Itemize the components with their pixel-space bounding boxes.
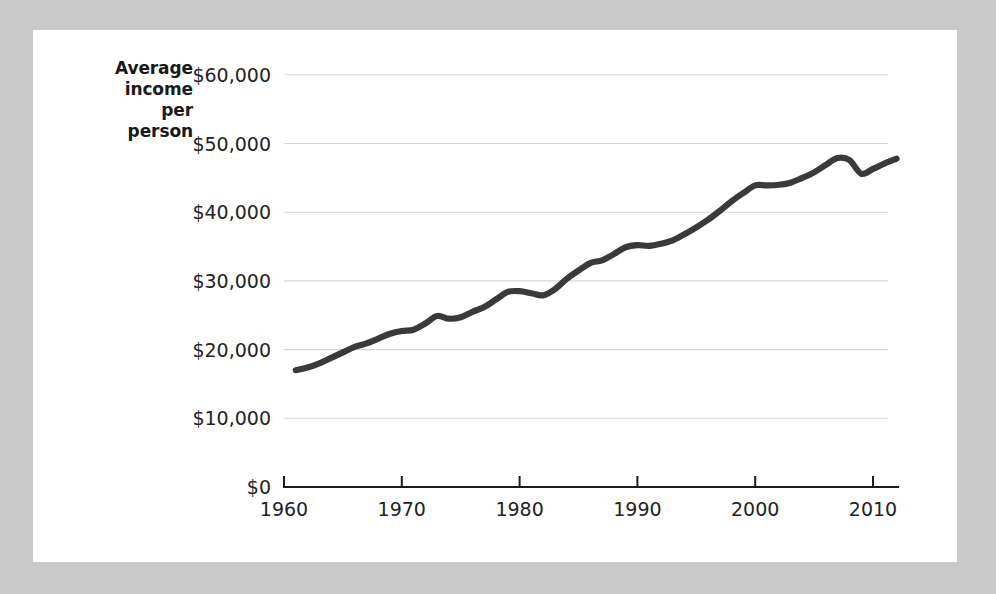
x-axis-tick-label: 2000 (731, 498, 779, 520)
line-chart-plot: $0$10,000$20,000$30,000$40,000$50,000$60… (33, 30, 957, 562)
gridlines-group (284, 75, 888, 419)
y-axis-tick-label: $50,000 (192, 133, 271, 155)
figure-background: Average income per person $0$10,000$20,0… (0, 0, 996, 594)
y-axis-tick-label: $20,000 (192, 339, 271, 361)
income-trend-line (296, 158, 897, 371)
y-axis-tick-label: $10,000 (192, 407, 271, 429)
x-axis-tick-label: 1980 (495, 498, 543, 520)
y-axis-tick-label: $0 (247, 476, 271, 498)
y-axis-tick-label: $30,000 (192, 270, 271, 292)
x-axis-tick-label: 1960 (260, 498, 308, 520)
y-axis-tick-label: $60,000 (192, 64, 271, 86)
y-axis-tick-label: $40,000 (192, 201, 271, 223)
x-axis-tick-labels: 196019701980199020002010 (260, 498, 897, 520)
x-axis-tick-label: 1990 (613, 498, 661, 520)
x-axis-tick-label: 1970 (378, 498, 426, 520)
chart-card: Average income per person $0$10,000$20,0… (33, 30, 957, 562)
y-axis-tick-labels: $0$10,000$20,000$30,000$40,000$50,000$60… (192, 64, 271, 498)
x-axis-tick-label: 2010 (849, 498, 897, 520)
x-axis (284, 476, 898, 487)
